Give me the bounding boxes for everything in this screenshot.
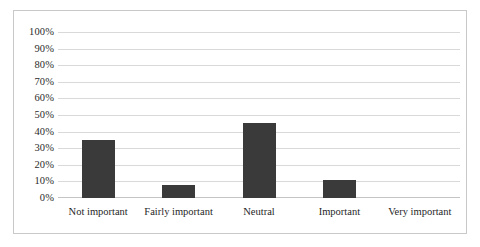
y-axis-tick-label: 70% [14,77,54,88]
y-axis-tick-label: 10% [14,176,54,187]
y-axis-tick-label: 90% [14,43,54,54]
bars-layer [58,32,460,198]
y-axis: 100% 90% 80% 70% 60% 50% 40% 30% 20% 10%… [14,32,54,198]
bar-important[interactable] [323,180,356,198]
y-axis-tick-label: 80% [14,60,54,71]
chart-frame: 100% 90% 80% 70% 60% 50% 40% 30% 20% 10%… [13,10,467,234]
y-axis-tick-label: 20% [14,160,54,171]
bar-not-important[interactable] [82,140,115,198]
x-axis: Not important Fairly important Neutral I… [58,202,460,224]
x-axis-tick-label: Very important [388,202,451,222]
y-axis-tick-label: 50% [14,110,54,121]
bar-neutral[interactable] [243,123,276,198]
y-axis-tick-label: 100% [14,27,54,38]
bar-fairly-important[interactable] [162,185,195,198]
y-axis-tick-label: 0% [14,193,54,204]
x-axis-tick-label: Fairly important [144,202,213,222]
x-axis-tick-label: Not important [69,202,128,222]
y-axis-tick-label: 30% [14,143,54,154]
x-axis-tick-label: Neutral [243,202,275,222]
y-axis-tick-label: 60% [14,93,54,104]
y-axis-tick-label: 40% [14,126,54,137]
x-axis-tick-label: Important [319,202,360,222]
